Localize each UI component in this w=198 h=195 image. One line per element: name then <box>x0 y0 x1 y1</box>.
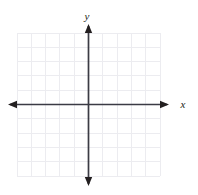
coordinate-plane-graphic: y x <box>0 0 198 195</box>
coordinate-plane-figure: y x <box>0 0 198 195</box>
x-axis-label: x <box>180 98 186 110</box>
y-axis-label: y <box>84 10 90 22</box>
figure-background <box>0 0 198 195</box>
